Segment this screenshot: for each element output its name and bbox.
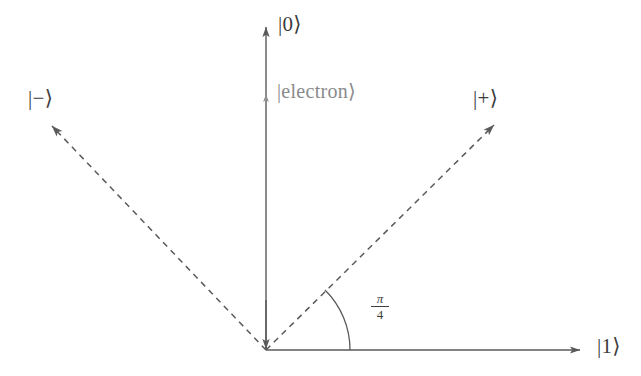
- ket-1-label: |1⟩: [597, 336, 621, 357]
- pi-over-four-arc: [325, 290, 350, 350]
- electron-state-label: |electron⟩: [277, 81, 356, 101]
- ket-minus-label: |−⟩: [28, 88, 53, 109]
- ket-0-label: |0⟩: [278, 14, 302, 35]
- angle-numerator: π: [367, 292, 393, 306]
- ket-plus-label: |+⟩: [473, 88, 498, 109]
- angle-denominator: 4: [367, 307, 393, 321]
- quantum-state-diagram: |0⟩ |1⟩ |+⟩ |−⟩ |electron⟩ π 4: [0, 0, 641, 376]
- diagram-canvas: [0, 0, 641, 376]
- angle-label: π 4: [367, 292, 393, 321]
- ket-minus-vector-line: [52, 126, 266, 350]
